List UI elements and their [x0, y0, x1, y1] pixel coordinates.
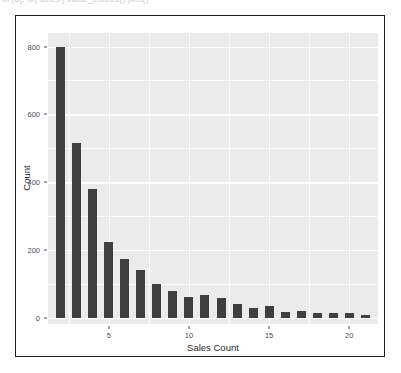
gridline-horizontal-major	[48, 182, 378, 183]
x-tick-label: 5	[107, 331, 111, 340]
bar	[233, 304, 242, 318]
figure-frame: Count Sales Count 02004006008005101520	[15, 15, 385, 357]
x-tick-mark	[269, 326, 270, 329]
clipped-text: In [8]: df['sales'].value_counts().plot(…	[2, 0, 149, 4]
y-tick-label: 800	[27, 42, 40, 51]
x-axis-title: Sales Count	[48, 342, 378, 353]
gridline-vertical-minor	[149, 33, 150, 324]
gridline-horizontal-minor	[48, 80, 378, 81]
bar	[345, 313, 354, 318]
bar	[184, 297, 193, 318]
gridline-vertical-major	[189, 33, 190, 324]
plot-panel	[48, 33, 378, 324]
gridline-vertical-major	[269, 33, 270, 324]
bar	[249, 308, 258, 318]
bar	[104, 242, 113, 318]
clipped-notebook-text-strip: In [8]: df['sales'].value_counts().plot(…	[0, 0, 401, 9]
bar	[265, 306, 274, 318]
y-tick-mark	[44, 114, 47, 115]
bar	[152, 284, 161, 318]
bar	[136, 270, 145, 317]
x-tick-label: 15	[265, 331, 273, 340]
bar	[217, 298, 226, 318]
bar	[120, 259, 129, 318]
y-tick-label: 600	[27, 110, 40, 119]
bar	[88, 189, 97, 318]
x-tick-mark	[349, 326, 350, 329]
bar	[329, 313, 338, 318]
y-tick-label: 200	[27, 246, 40, 255]
gridline-horizontal-major	[48, 250, 378, 251]
y-tick-label: 0	[36, 313, 40, 322]
gridline-horizontal-major	[48, 47, 378, 48]
gridline-vertical-minor	[309, 33, 310, 324]
x-tick-mark	[188, 326, 189, 329]
bar	[56, 47, 65, 318]
bar	[281, 312, 290, 318]
bar	[72, 143, 81, 318]
gridline-vertical-minor	[69, 33, 70, 324]
gridline-horizontal-major	[48, 318, 378, 319]
gridline-vertical-major	[349, 33, 350, 324]
y-tick-label: 400	[27, 178, 40, 187]
gridline-horizontal-minor	[48, 284, 378, 285]
bar	[297, 311, 306, 318]
gridline-horizontal-minor	[48, 148, 378, 149]
y-tick-mark	[44, 46, 47, 47]
y-tick-mark	[44, 182, 47, 183]
y-tick-mark	[44, 250, 47, 251]
x-tick-label: 20	[345, 331, 353, 340]
gridline-horizontal-major	[48, 114, 378, 115]
bar	[361, 315, 370, 318]
bar	[313, 313, 322, 317]
gridline-horizontal-minor	[48, 216, 378, 217]
x-tick-mark	[108, 326, 109, 329]
x-tick-label: 10	[185, 331, 193, 340]
bar	[168, 291, 177, 317]
gridline-vertical-minor	[229, 33, 230, 324]
bar	[200, 295, 209, 318]
y-tick-mark	[44, 317, 47, 318]
